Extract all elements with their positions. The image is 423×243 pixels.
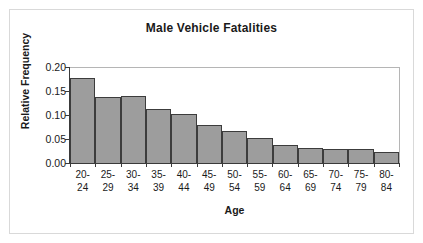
- x-tick-label-50-54: 50-54: [222, 168, 247, 200]
- y-tick-label: 0.00: [26, 158, 66, 169]
- x-tick-mark: [272, 163, 273, 167]
- bar-30-34: [121, 96, 146, 163]
- x-tick-mark: [323, 163, 324, 167]
- x-tick-mark: [95, 163, 96, 167]
- x-tick-mark: [197, 163, 198, 167]
- x-tick-mark: [121, 163, 122, 167]
- x-tick-mark: [171, 163, 172, 167]
- x-tick-label-60-64: 60-64: [273, 168, 298, 200]
- y-axis-tick-labels: 0.000.050.100.150.20: [24, 0, 66, 243]
- y-tick-label: 0.15: [26, 86, 66, 97]
- bar-45-49: [197, 125, 222, 163]
- y-tick-label: 0.20: [26, 62, 66, 73]
- x-tick-label-70-74: 70-74: [323, 168, 348, 200]
- chart-figure: Male Vehicle Fatalities Relative Frequen…: [0, 0, 423, 243]
- x-tick-label-40-44: 40-44: [171, 168, 196, 200]
- bar-40-44: [171, 114, 196, 163]
- y-tick-mark: [65, 67, 69, 68]
- bar-series: [70, 67, 399, 163]
- bar-80-84: [374, 152, 399, 163]
- bar-60-64: [273, 145, 298, 163]
- x-tick-mark: [399, 163, 400, 167]
- bar-75-79: [348, 149, 373, 163]
- bar-35-39: [146, 109, 171, 163]
- y-tick-mark: [65, 163, 69, 164]
- x-tick-label-80-84: 80-84: [374, 168, 399, 200]
- x-tick-label-75-79: 75-79: [348, 168, 373, 200]
- x-tick-mark: [146, 163, 147, 167]
- bar-20-24: [70, 78, 95, 163]
- x-tick-label-20-24: 20-24: [70, 168, 95, 200]
- x-tick-label-35-39: 35-39: [146, 168, 171, 200]
- x-tick-label-30-34: 30-34: [121, 168, 146, 200]
- x-tick-mark: [374, 163, 375, 167]
- x-tick-label-65-69: 65-69: [298, 168, 323, 200]
- x-tick-mark: [298, 163, 299, 167]
- x-tick-mark: [348, 163, 349, 167]
- y-tick-mark: [65, 91, 69, 92]
- bar-55-59: [247, 138, 272, 163]
- bar-70-74: [323, 149, 348, 163]
- y-tick-mark: [65, 115, 69, 116]
- bar-50-54: [222, 131, 247, 163]
- x-axis-line: [69, 163, 400, 164]
- y-tick-mark: [65, 139, 69, 140]
- x-axis-tick-labels: 20-2425-2930-3435-3940-4445-4950-5455-59…: [70, 168, 399, 200]
- x-axis-title: Age: [69, 204, 400, 216]
- x-tick-mark: [247, 163, 248, 167]
- y-tick-label: 0.05: [26, 134, 66, 145]
- x-tick-label-55-59: 55-59: [247, 168, 272, 200]
- x-tick-label-25-29: 25-29: [95, 168, 120, 200]
- x-tick-mark: [222, 163, 223, 167]
- x-tick-mark: [70, 163, 71, 167]
- x-tick-label-45-49: 45-49: [197, 168, 222, 200]
- bar-25-29: [95, 97, 120, 163]
- y-tick-label: 0.10: [26, 110, 66, 121]
- bar-65-69: [298, 148, 323, 163]
